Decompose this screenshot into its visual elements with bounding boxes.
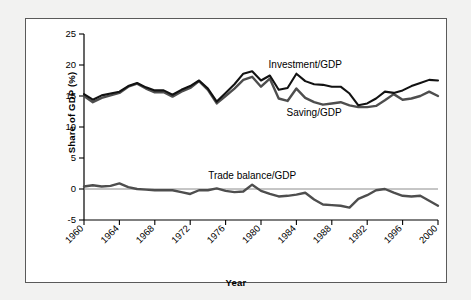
svg-text:Investment/GDP: Investment/GDP xyxy=(269,59,343,70)
plot-area: 2520151050-5 196019641968197219761980198… xyxy=(26,19,446,281)
svg-text:2000: 2000 xyxy=(417,223,440,246)
x-axis-ticks: 1960196419681972197619801984198819921996… xyxy=(63,220,440,245)
svg-text:1984: 1984 xyxy=(275,223,298,246)
series-line-trade-balance xyxy=(84,183,438,207)
svg-text:1996: 1996 xyxy=(381,223,404,246)
svg-text:1972: 1972 xyxy=(169,223,192,246)
svg-text:25: 25 xyxy=(65,28,76,39)
svg-text:1968: 1968 xyxy=(133,223,156,246)
svg-text:1976: 1976 xyxy=(204,223,227,246)
chart-figure: Share of GDP (%) Year 2520151050-5 19601… xyxy=(0,0,471,300)
svg-text:0: 0 xyxy=(71,183,76,194)
svg-text:Trade balance/GDP: Trade balance/GDP xyxy=(208,170,296,181)
chart-frame: Share of GDP (%) Year 2520151050-5 19601… xyxy=(25,18,447,283)
svg-text:1988: 1988 xyxy=(310,223,333,246)
svg-text:1960: 1960 xyxy=(63,223,86,246)
svg-text:1964: 1964 xyxy=(98,223,121,246)
series-annotations: Investment/GDPSaving/GDPTrade balance/GD… xyxy=(208,59,342,181)
y-axis-ticks: 2520151050-5 xyxy=(65,28,84,225)
svg-text:Saving/GDP: Saving/GDP xyxy=(287,107,342,118)
svg-text:5: 5 xyxy=(71,152,76,163)
svg-text:1992: 1992 xyxy=(346,223,369,246)
svg-text:20: 20 xyxy=(65,59,76,70)
svg-text:10: 10 xyxy=(65,121,76,132)
svg-text:15: 15 xyxy=(65,90,76,101)
svg-text:-5: -5 xyxy=(68,214,76,225)
svg-text:1980: 1980 xyxy=(240,223,263,246)
